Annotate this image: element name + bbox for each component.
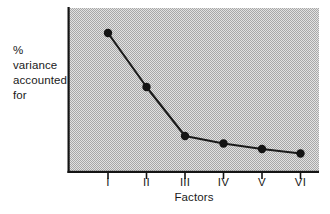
- scree-plot-figure: % variance accounted for: [0, 0, 330, 214]
- data-point-2: [142, 83, 150, 91]
- x-tick-label-3: III: [170, 176, 200, 188]
- data-point-6: [296, 149, 304, 157]
- y-axis-line: [68, 7, 70, 173]
- y-axis-label-line-3: accounted: [13, 73, 65, 88]
- x-axis-line: [68, 171, 320, 173]
- y-axis-label-line-4: for: [13, 88, 65, 103]
- data-point-1: [104, 29, 112, 37]
- x-axis-title: Factors: [68, 191, 320, 203]
- data-point-4: [219, 139, 227, 147]
- y-axis-label: % variance accounted for: [13, 43, 65, 103]
- x-tick-label-2: II: [132, 176, 162, 188]
- data-point-3: [181, 132, 189, 140]
- x-tick-label-1: I: [93, 176, 123, 188]
- plot-canvas: [0, 0, 330, 214]
- y-axis-label-line-1: %: [13, 43, 65, 58]
- x-tick-label-6: VI: [286, 176, 316, 188]
- data-point-5: [258, 145, 266, 153]
- x-tick-label-5: V: [247, 176, 277, 188]
- x-tick-label-4: IV: [209, 176, 239, 188]
- y-axis-label-line-2: variance: [13, 58, 65, 73]
